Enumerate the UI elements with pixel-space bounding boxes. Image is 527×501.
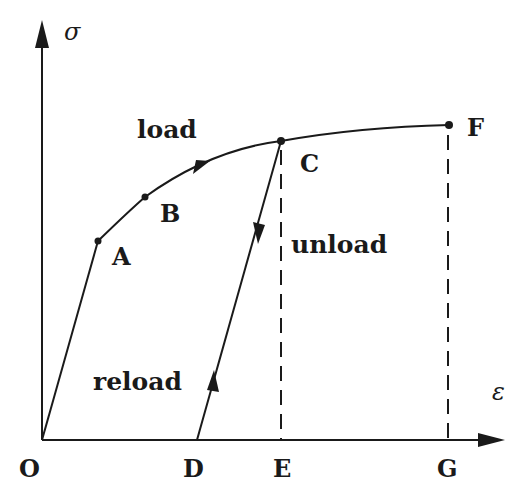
unload-reload-line-CD — [197, 141, 281, 440]
elastic-segment-OA — [42, 241, 98, 440]
point-D-label: D — [183, 454, 204, 483]
point-E-label: E — [273, 454, 291, 483]
unload-annotation: unload — [291, 230, 387, 259]
point-F-label: F — [467, 113, 484, 142]
sigma-axis-label: σ — [64, 18, 81, 46]
point-O-label: O — [19, 454, 40, 483]
stress-strain-diagram: σ ε A B C F O D E G load unload reload — [0, 0, 527, 501]
point-A-marker — [95, 238, 102, 245]
point-G-label: G — [437, 454, 458, 483]
reload-annotation: reload — [93, 367, 182, 396]
point-F-marker — [445, 121, 453, 129]
point-C-marker — [277, 137, 285, 145]
reload-direction-arrow-icon — [207, 370, 219, 392]
epsilon-axis-label: ε — [492, 378, 505, 406]
sigma-axis-arrow-icon — [35, 20, 49, 48]
epsilon-axis-arrow-icon — [478, 433, 505, 447]
load-direction-arrow-icon — [193, 160, 210, 174]
point-C-label: C — [300, 149, 319, 178]
point-B-label: B — [160, 199, 180, 228]
point-A-label: A — [111, 242, 131, 271]
load-annotation: load — [137, 115, 197, 144]
point-B-marker — [142, 194, 149, 201]
